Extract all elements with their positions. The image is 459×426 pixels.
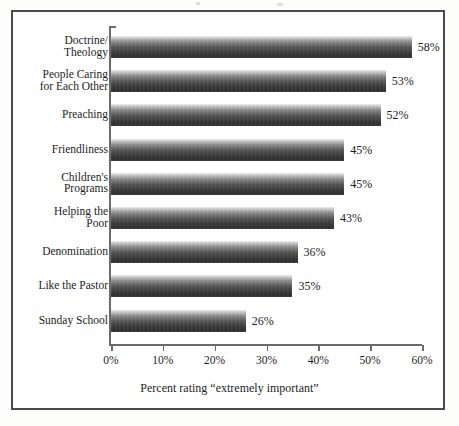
x-axis-tick-label: 40% bbox=[298, 354, 338, 366]
bar-row: Sunday School26% bbox=[0, 310, 459, 332]
x-axis-tick-label: 0% bbox=[91, 354, 131, 366]
x-axis-line bbox=[109, 344, 422, 346]
bar-row: People Caring for Each Other53% bbox=[0, 70, 459, 92]
bar-row: Denomination36% bbox=[0, 241, 459, 263]
category-label: Friendliness bbox=[0, 144, 108, 156]
bar-row: Friendliness45% bbox=[0, 139, 459, 161]
category-label: Preaching bbox=[0, 109, 108, 121]
bar-value-label: 45% bbox=[350, 143, 372, 158]
category-label: Doctrine/ Theology bbox=[0, 35, 108, 58]
x-axis-tick-label: 20% bbox=[195, 354, 235, 366]
x-axis-tick-label: 30% bbox=[247, 354, 287, 366]
category-label: Like the Pastor bbox=[0, 280, 108, 292]
category-label: Helping the Poor bbox=[0, 206, 108, 229]
bar-value-label: 36% bbox=[304, 245, 326, 260]
bar bbox=[111, 207, 334, 229]
bar bbox=[111, 310, 246, 332]
category-label: Denomination bbox=[0, 246, 108, 258]
chart-page: Doctrine/ Theology58%People Caring for E… bbox=[0, 0, 459, 426]
bar-row: Like the Pastor35% bbox=[0, 275, 459, 297]
bar-value-label: 26% bbox=[252, 314, 274, 329]
x-axis-tick bbox=[111, 345, 113, 351]
bar-value-label: 45% bbox=[350, 177, 372, 192]
category-label: Sunday School bbox=[0, 315, 108, 327]
category-label: Children's Programs bbox=[0, 172, 108, 195]
x-axis-tick bbox=[318, 345, 320, 351]
bar bbox=[111, 241, 298, 263]
x-axis-title: Percent rating “extremely important” bbox=[0, 381, 459, 396]
bar bbox=[111, 70, 386, 92]
bar bbox=[111, 104, 381, 126]
bar-row: Children's Programs45% bbox=[0, 173, 459, 195]
x-axis-tick bbox=[370, 345, 372, 351]
bar bbox=[111, 36, 412, 58]
x-axis-tick-label: 60% bbox=[402, 354, 442, 366]
bar bbox=[111, 139, 344, 161]
x-axis-tick bbox=[215, 345, 217, 351]
x-axis-tick bbox=[422, 345, 424, 351]
bar bbox=[111, 275, 292, 297]
bar-value-label: 52% bbox=[387, 108, 409, 123]
bar-chart-plot-area: Doctrine/ Theology58%People Caring for E… bbox=[0, 0, 459, 426]
x-axis-tick bbox=[163, 345, 165, 351]
bar-row: Doctrine/ Theology58% bbox=[0, 36, 459, 58]
bar-row: Helping the Poor43% bbox=[0, 207, 459, 229]
bar-value-label: 35% bbox=[298, 279, 320, 294]
x-axis-tick-label: 50% bbox=[350, 354, 390, 366]
bar-row: Preaching52% bbox=[0, 104, 459, 126]
x-axis-tick bbox=[267, 345, 269, 351]
bar-value-label: 43% bbox=[340, 211, 362, 226]
category-label: People Caring for Each Other bbox=[0, 69, 108, 92]
bar-value-label: 58% bbox=[418, 40, 440, 55]
bar bbox=[111, 173, 344, 195]
bar-value-label: 53% bbox=[392, 74, 414, 89]
x-axis-tick-label: 10% bbox=[143, 354, 183, 366]
